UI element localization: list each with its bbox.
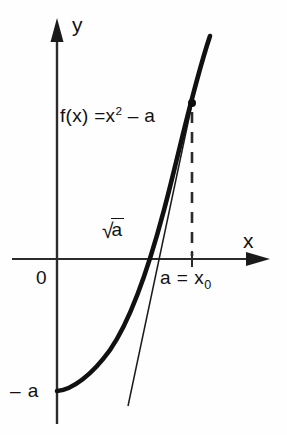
function-formula-suffix: – a xyxy=(122,105,155,126)
minus-a-label: – a xyxy=(10,381,39,400)
radical-group: √a xyxy=(100,218,124,241)
y-axis-label: y xyxy=(72,14,83,35)
x-axis-label: x xyxy=(243,230,254,251)
x0-label: a = x0 xyxy=(160,268,212,287)
function-formula-prefix: f(x) =x xyxy=(60,105,115,126)
parabola-curve xyxy=(57,36,210,391)
plot-canvas xyxy=(0,0,287,435)
y-axis xyxy=(51,18,64,424)
function-formula-label: f(x) =x2 – a xyxy=(60,106,155,125)
radicand: a xyxy=(111,218,125,239)
parabola-tangent-figure: y x f(x) =x2 – a √a 0 a = x0 – a xyxy=(0,0,287,435)
x0-label-prefix: a = x xyxy=(160,267,204,288)
x0-label-subscript: 0 xyxy=(204,278,211,292)
y-axis-arrow-icon xyxy=(51,18,64,42)
x-axis xyxy=(12,252,270,266)
x-axis-arrow-icon xyxy=(246,252,270,266)
tangency-point-marker xyxy=(188,99,196,107)
origin-label: 0 xyxy=(36,268,47,287)
sqrt-a-label: √a xyxy=(100,218,124,241)
